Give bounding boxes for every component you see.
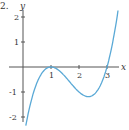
x-tick-2: 2: [77, 71, 82, 80]
problem-number: 2.: [0, 1, 9, 11]
y-axis-label: y: [19, 1, 26, 11]
x-tick-1: 1: [49, 71, 54, 80]
cubic-graph: 2. x y 1 2 3 2 1 -1 -2: [0, 0, 129, 130]
y-tick-2: 2: [14, 13, 19, 22]
y-tick-1: 1: [14, 38, 19, 47]
x-axis-label: x: [121, 62, 126, 72]
y-tick-neg2: -2: [9, 113, 17, 122]
curve-line: [26, 11, 118, 126]
y-tick-neg1: -1: [9, 88, 17, 97]
